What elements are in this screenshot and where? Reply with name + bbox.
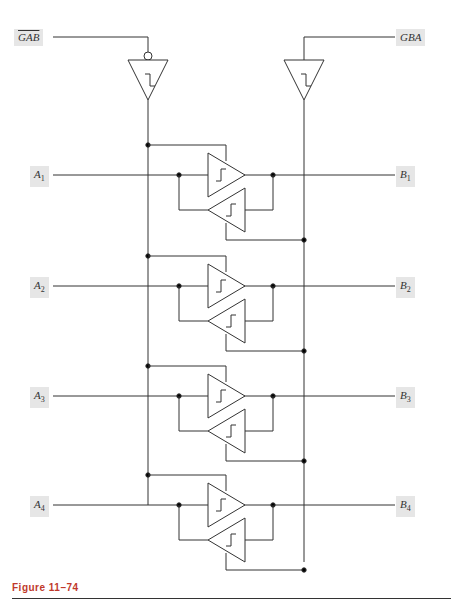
caption-rule — [12, 598, 451, 599]
b1-label: B1 — [396, 166, 415, 187]
a2-label: A2 — [30, 277, 49, 298]
b4-label: B4 — [396, 496, 415, 517]
b2-label: B2 — [396, 277, 415, 298]
a1-label: A1 — [30, 166, 49, 187]
b3-label: B3 — [396, 387, 415, 408]
a4-label: A4 — [30, 496, 49, 517]
a3-label: A3 — [30, 387, 49, 408]
figure-caption: Figure 11–74 — [12, 582, 79, 593]
gab-label: GAB — [14, 29, 43, 46]
circuit-diagram — [0, 0, 451, 614]
gba-label: GBA — [396, 29, 425, 46]
